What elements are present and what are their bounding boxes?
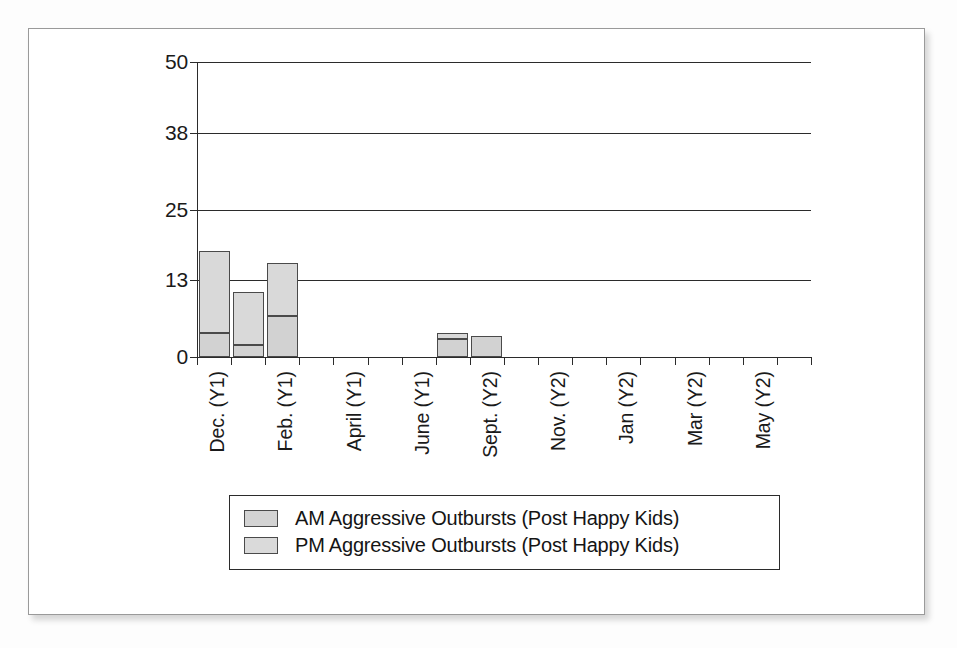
y-tick-label: 50	[165, 50, 188, 74]
x-tick-mark	[333, 357, 334, 365]
y-tick-mark-38	[190, 133, 197, 134]
plot-area: 503825130	[197, 62, 811, 357]
y-tick-label: 13	[165, 268, 188, 292]
x-tick-mark	[640, 357, 641, 365]
x-axis-label: May (Y2)	[752, 371, 775, 449]
legend-swatch-am	[244, 510, 278, 527]
bar-segment-pm	[233, 292, 264, 345]
x-tick-mark	[402, 357, 403, 365]
bar-group	[471, 336, 502, 357]
x-tick-mark	[572, 357, 573, 365]
x-tick-mark	[197, 357, 198, 365]
figure-frame: 503825130 Dec. (Y1)Feb. (Y1)April (Y1)Ju…	[28, 28, 925, 615]
bar-segment-pm	[267, 263, 298, 316]
x-tick-mark	[811, 357, 812, 365]
bar-segment-pm	[199, 251, 230, 334]
gridline-25	[197, 210, 811, 211]
x-axis-label: Dec. (Y1)	[206, 371, 229, 452]
bar-segment-pm	[437, 333, 468, 339]
bar-segment-am	[199, 333, 230, 357]
x-axis-label: Nov. (Y2)	[547, 371, 570, 451]
bar-segment-am	[471, 336, 502, 357]
bar-segment-am	[233, 345, 264, 357]
y-tick-mark-0	[190, 357, 197, 358]
legend-swatch-pm	[244, 537, 278, 554]
bar-segment-am	[437, 339, 468, 357]
chart-legend: AM Aggressive Outbursts (Post Happy Kids…	[229, 495, 780, 570]
bar-segment-am	[267, 316, 298, 357]
bar-group	[199, 251, 230, 357]
legend-item: AM Aggressive Outbursts (Post Happy Kids…	[244, 505, 765, 532]
x-tick-mark	[606, 357, 607, 365]
bar-group	[267, 263, 298, 357]
plot-wrapper: 503825130 Dec. (Y1)Feb. (Y1)April (Y1)Ju…	[29, 29, 926, 616]
y-tick-mark-13	[190, 280, 197, 281]
x-tick-mark	[538, 357, 539, 365]
y-tick-label: 38	[165, 121, 188, 145]
x-tick-mark	[470, 357, 471, 365]
gridline-38	[197, 133, 811, 134]
x-axis-label: Feb. (Y1)	[274, 371, 297, 451]
gridline-50	[197, 62, 811, 63]
x-axis-label: April (Y1)	[343, 371, 366, 451]
x-axis-label: Mar (Y2)	[684, 371, 707, 446]
x-axis-label: June (Y1)	[411, 371, 434, 455]
legend-item: PM Aggressive Outbursts (Post Happy Kids…	[244, 532, 765, 559]
x-tick-mark	[777, 357, 778, 365]
x-tick-mark	[231, 357, 232, 365]
x-tick-mark	[436, 357, 437, 365]
x-tick-mark	[504, 357, 505, 365]
legend-label: PM Aggressive Outbursts (Post Happy Kids…	[295, 534, 679, 557]
bar-group	[233, 292, 264, 357]
x-tick-mark	[299, 357, 300, 365]
x-tick-mark	[709, 357, 710, 365]
x-tick-mark	[368, 357, 369, 365]
x-tick-mark	[265, 357, 266, 365]
y-tick-label: 25	[165, 198, 188, 222]
y-tick-mark-25	[190, 210, 197, 211]
chart-page: 503825130 Dec. (Y1)Feb. (Y1)April (Y1)Ju…	[0, 0, 957, 648]
x-axis-labels: Dec. (Y1)Feb. (Y1)April (Y1)June (Y1)Sep…	[197, 367, 811, 497]
y-tick-label: 0	[177, 345, 188, 369]
x-axis-label: Sept. (Y2)	[479, 371, 502, 458]
bar-group	[437, 333, 468, 357]
x-tick-mark	[675, 357, 676, 365]
y-tick-mark-50	[190, 62, 197, 63]
legend-label: AM Aggressive Outbursts (Post Happy Kids…	[295, 507, 679, 530]
x-axis-label: Jan (Y2)	[615, 371, 638, 444]
x-tick-mark	[743, 357, 744, 365]
